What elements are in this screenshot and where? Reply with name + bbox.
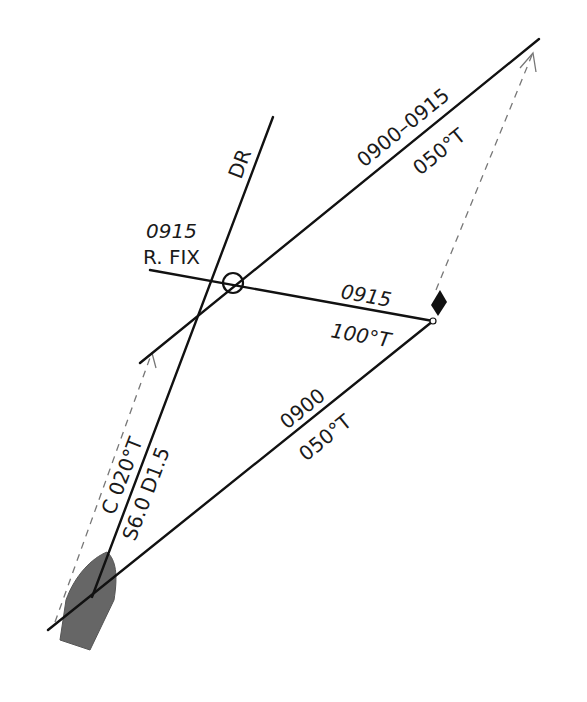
lop2-time-label: 0915 bbox=[339, 279, 393, 311]
fix-type-label: R. FIX bbox=[143, 245, 200, 269]
landmark-diamond-icon bbox=[431, 290, 447, 316]
landmark-point-icon bbox=[430, 318, 436, 324]
dr-course-line bbox=[92, 117, 273, 597]
navigation-plot: DR 0915 R. FIX 0900–0915 050°T 0915 100°… bbox=[0, 0, 587, 702]
fix-time-label: 0915 bbox=[146, 219, 197, 243]
advance-dashed-line-right bbox=[436, 55, 532, 290]
lop2-bearing-label: 100°T bbox=[329, 318, 394, 352]
boat-icon bbox=[60, 552, 116, 650]
lop1-bearing-label: 050°T bbox=[408, 123, 471, 180]
lop-advanced-line bbox=[140, 39, 539, 363]
lop-0900-line bbox=[48, 321, 433, 630]
arrowhead-right-icon bbox=[520, 53, 536, 72]
